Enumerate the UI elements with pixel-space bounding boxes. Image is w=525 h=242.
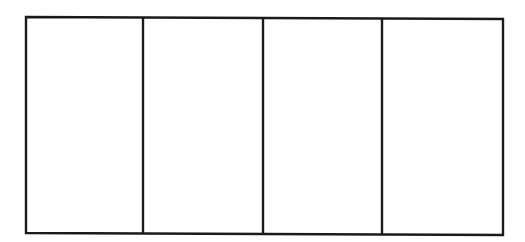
partitioned-rectangle-diagram: [0, 0, 525, 242]
outer-rectangle: [26, 17, 503, 235]
